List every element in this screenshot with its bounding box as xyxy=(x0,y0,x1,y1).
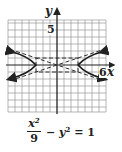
numerator: x2 xyxy=(27,118,41,130)
denominator: 9 xyxy=(27,133,41,145)
hyperbola-graph xyxy=(0,0,122,120)
x-axis-label: x xyxy=(107,66,114,78)
x-tick-label-6: 6 xyxy=(99,67,107,78)
fraction: x2 9 xyxy=(27,118,41,145)
equation-rest: − y2 = 1 xyxy=(46,126,95,139)
equation: x2 9 − y2 = 1 xyxy=(0,118,122,152)
y-axis-label: y xyxy=(45,5,52,17)
y-tick-label-5: 5 xyxy=(47,24,55,35)
